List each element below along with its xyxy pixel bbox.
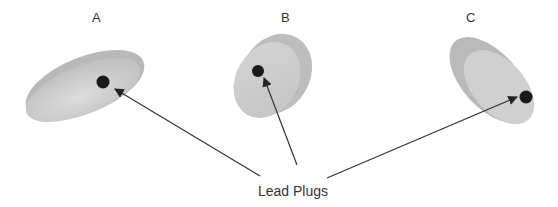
object-c [434,23,547,138]
arrow-to-c [327,97,517,178]
object-b [220,21,326,131]
diagram-canvas: A B C Lead Plugs [0,0,558,207]
diagram-graphics [0,0,558,207]
label-a: A [92,10,101,25]
label-b: B [281,10,290,25]
label-c: C [466,10,475,25]
lead-plug-a [97,76,110,89]
object-a [16,35,154,135]
callout-label: Lead Plugs [258,183,328,199]
lead-plug-c [520,91,533,104]
lead-plug-b [252,65,264,77]
